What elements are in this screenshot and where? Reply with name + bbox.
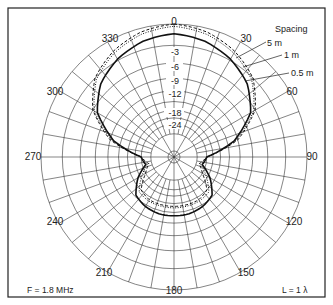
legend-5m: 5 m [267,38,282,48]
angle-label-30: 30 [240,33,252,44]
length-label: L = 1 λ [282,285,308,295]
frequency-label: F = 1.8 MHz [27,285,74,295]
angle-label-330: 330 [102,33,119,44]
legend-1m: 1 m [284,50,299,60]
angle-label-210: 210 [96,267,113,278]
angle-label-60: 60 [286,86,298,97]
angle-label-180: 180 [166,285,183,296]
db-label-24: -24 [168,120,181,130]
db-label-12: -12 [168,89,181,99]
legend-05m: 0.5 m [291,68,314,78]
angle-label-240: 240 [47,216,64,227]
legend-title: Spacing [275,24,308,34]
db-label-18: -18 [168,108,181,118]
angle-label-120: 120 [286,216,303,227]
db-label-3: -3 [171,47,179,57]
db-label-9: -9 [171,76,179,86]
angle-label-150: 150 [238,267,255,278]
polar-chart: 0 30 60 90 120 150 180 210 240 270 300 3… [0,0,333,305]
angle-label-270: 270 [25,151,42,162]
angle-label-90: 90 [306,151,318,162]
angle-label-0: 0 [171,16,177,27]
db-label-6: -6 [171,62,179,72]
angle-label-300: 300 [47,86,64,97]
